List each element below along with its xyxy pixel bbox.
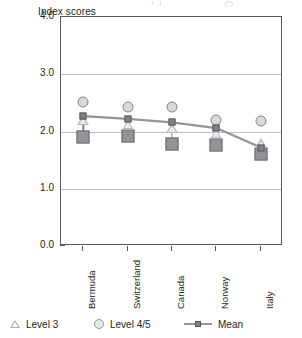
- x-axis-tick-label: Bermuda: [87, 270, 97, 309]
- x-axis-tick-label: Italy: [265, 292, 275, 309]
- chart-figure: Index scores 0.01.02.03.04.0 BermudaSwit…: [0, 0, 302, 338]
- gridline: [61, 189, 281, 190]
- x-axis-tick-label: Canada: [176, 276, 186, 309]
- data-point-large-square: [166, 138, 179, 151]
- legend-item-level-3: Level 3: [10, 316, 58, 332]
- x-axis-tick-mark: [260, 246, 261, 251]
- x-axis-tick-mark: [171, 246, 172, 251]
- data-point-large-square: [121, 129, 134, 142]
- x-axis-tick-mark: [127, 246, 128, 251]
- x-axis-tick-label: Switzerland: [132, 260, 142, 309]
- legend-item-mean: Mean: [184, 316, 243, 332]
- data-point-mean-square: [124, 115, 131, 122]
- remnant-mark-b: [160, 1, 164, 5]
- data-point-mean-square: [257, 144, 264, 151]
- y-axis-tick-label: 4.0: [24, 11, 54, 21]
- y-axis-tick-mark: [60, 245, 65, 246]
- data-point-circle: [255, 116, 266, 127]
- data-point-circle: [167, 102, 178, 113]
- y-axis-tick-label: 2.0: [24, 126, 54, 136]
- legend-label: Mean: [218, 319, 243, 330]
- data-point-large-square: [77, 130, 90, 143]
- remnant-mark-c: [225, 1, 233, 7]
- chart-legend: Level 3 Level 4/5 Mean: [6, 316, 296, 332]
- x-axis-tick-mark: [82, 246, 83, 251]
- data-point-mean-square: [80, 113, 87, 120]
- y-axis-tick-label: 0.0: [24, 240, 54, 250]
- data-point-circle: [78, 96, 89, 107]
- y-axis-tick-label: 1.0: [24, 183, 54, 193]
- gridline: [61, 74, 281, 75]
- data-point-large-square: [210, 139, 223, 152]
- circle-outline-icon: [94, 319, 104, 329]
- triangle-outline-icon: [10, 320, 20, 328]
- legend-item-level-45: Level 4/5: [94, 316, 151, 332]
- legend-label: Level 3: [26, 319, 58, 330]
- line-square-icon: [184, 319, 212, 329]
- data-point-mean-square: [213, 125, 220, 132]
- plot-area: [60, 16, 282, 245]
- data-point-circle: [122, 102, 133, 113]
- x-axis-tick-label: Norway: [220, 277, 230, 309]
- data-point-mean-square: [169, 119, 176, 126]
- y-axis-tick-label: 3.0: [24, 68, 54, 78]
- legend-label: Level 4/5: [110, 319, 151, 330]
- x-axis-tick-mark: [215, 246, 216, 251]
